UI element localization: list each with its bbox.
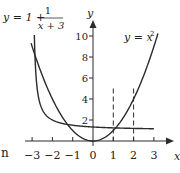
parabola-label: y = x <box>123 31 153 44</box>
x-axis-label: x <box>174 150 180 163</box>
x-tick-label: −2 <box>44 149 60 162</box>
stray-text: n <box>1 146 9 160</box>
y-tick-label: 4 <box>82 94 88 105</box>
x-tick-label: 2 <box>130 149 137 162</box>
hyperbola-label-numerator: 1 <box>45 5 51 16</box>
chart: −3−2−10123246810xyy = 1 +1x + 3y = x2n <box>0 0 180 173</box>
x-tick-label: −1 <box>65 149 81 162</box>
y-tick-label: 2 <box>82 115 88 126</box>
y-axis-label: y <box>86 7 94 20</box>
plot-area: −3−2−10123246810xyy = 1 +1x + 3y = x2n <box>1 5 180 163</box>
x-tick-label: −3 <box>24 149 40 162</box>
y-tick-label: 10 <box>75 31 88 42</box>
hyperbola-curve <box>34 35 154 129</box>
y-axis-arrow-icon <box>90 20 97 28</box>
parabola-curve <box>31 33 158 141</box>
x-axis-arrow-icon <box>166 138 174 145</box>
x-tick-label: 1 <box>110 149 117 162</box>
x-tick-label: 0 <box>90 149 97 162</box>
y-tick-label: 8 <box>82 52 88 63</box>
parabola-label-exponent: 2 <box>150 30 154 38</box>
y-tick-label: 6 <box>82 73 88 84</box>
x-tick-label: 3 <box>150 149 157 162</box>
hyperbola-label-denominator: x + 3 <box>38 20 65 31</box>
